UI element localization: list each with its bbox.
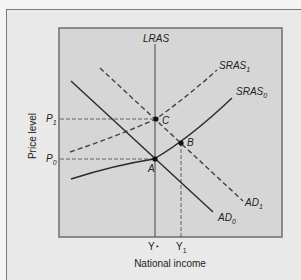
point-a-marker bbox=[152, 156, 157, 161]
y-star-tick-label: Y* bbox=[148, 241, 159, 252]
y1-tick-label: Y1 bbox=[176, 241, 187, 254]
p0-tick-label: P0 bbox=[46, 153, 57, 166]
ad-as-diagram: A B C LRAS SRAS1 SRAS0 AD1 AD0 P1 P0 Y* … bbox=[0, 0, 301, 280]
point-a-label: A bbox=[147, 163, 155, 174]
point-c-marker bbox=[153, 116, 158, 121]
p1-tick-label: P1 bbox=[46, 113, 57, 126]
lras-label: LRAS bbox=[143, 33, 169, 44]
y-axis-label: Price level bbox=[27, 113, 38, 159]
point-b-marker bbox=[178, 140, 183, 145]
point-c-label: C bbox=[162, 115, 170, 126]
point-b-label: B bbox=[187, 137, 194, 148]
x-axis-label: National income bbox=[134, 258, 206, 269]
